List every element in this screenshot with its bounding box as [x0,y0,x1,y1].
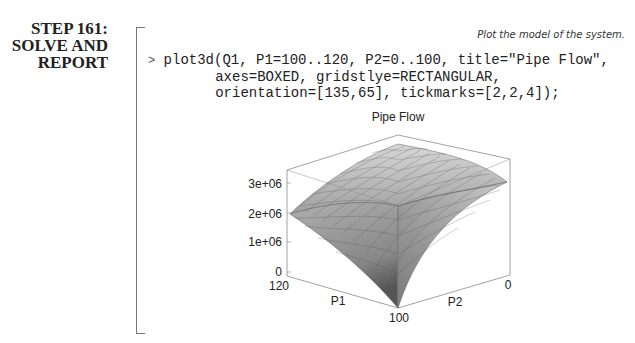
surface-plot: Pipe Flow [0,0,635,343]
z-tick-1e6: 1e+06 [248,235,282,249]
plot-title: Pipe Flow [372,110,425,124]
p2-axis-label: P2 [448,295,463,309]
p2-axis: P2 0 [448,278,512,309]
p1-axis-label: P1 [331,294,346,308]
z-tick-0: 0 [275,265,282,279]
p1-tick-100: 100 [389,311,409,325]
p1-tick-120: 120 [269,279,289,293]
z-tick-3e6: 3e+06 [248,177,282,191]
z-axis: 3e+06 2e+06 1e+06 0 [248,177,291,279]
p2-tick-0: 0 [505,278,512,292]
z-tick-2e6: 2e+06 [248,207,282,221]
